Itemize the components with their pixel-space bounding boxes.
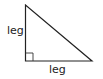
vertical-leg-label: leg [7, 25, 24, 36]
right-triangle-diagram: leg leg [0, 0, 103, 79]
right-angle-marker [26, 53, 34, 61]
horizontal-leg-label: leg [49, 64, 66, 75]
triangle-shape [26, 5, 93, 61]
